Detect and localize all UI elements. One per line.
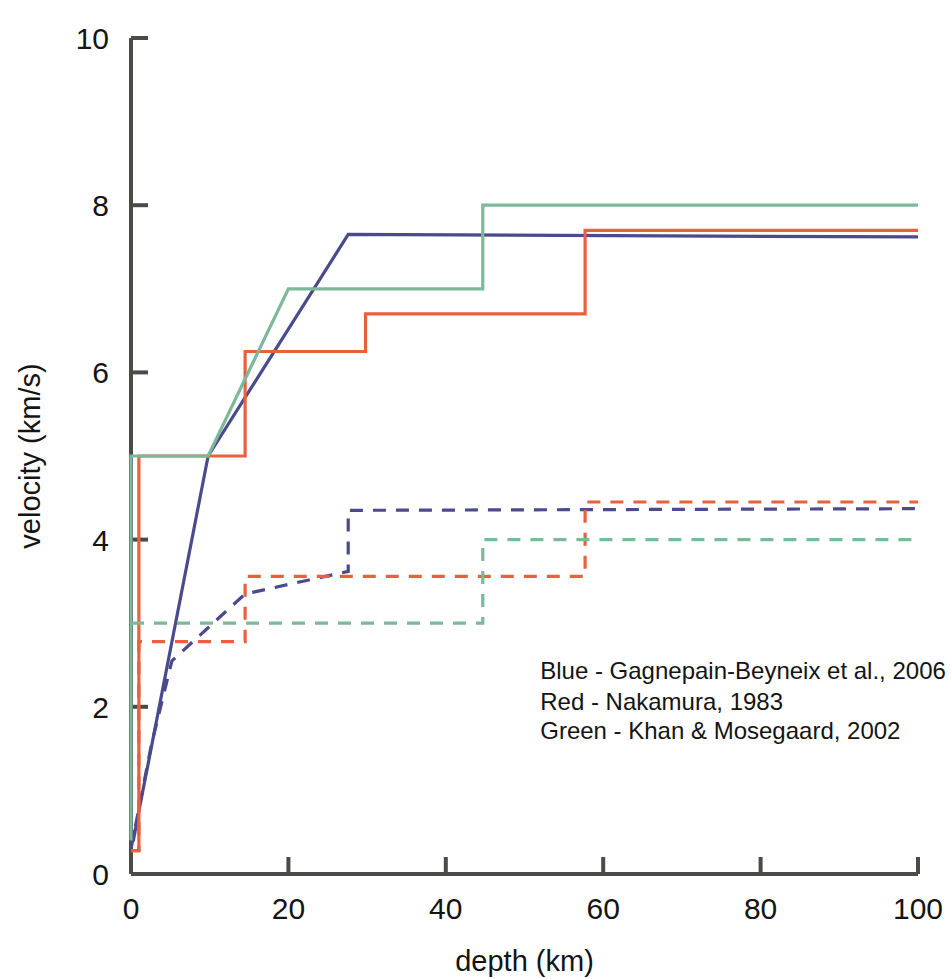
series-green-p-solid	[131, 205, 918, 840]
x-tick-label-60: 60	[587, 892, 620, 925]
data-series-layer	[131, 205, 918, 850]
x-axis-ticks	[131, 857, 918, 874]
x-axis-title: depth (km)	[455, 945, 594, 977]
axes-layer	[131, 38, 918, 874]
x-tick-label-0: 0	[123, 892, 140, 925]
series-red-p-solid	[131, 230, 918, 850]
y-axis-title: velocity (km/s)	[14, 363, 46, 548]
series-blue-p-solid	[131, 234, 918, 836]
legend-red: Red - Nakamura, 1983	[540, 688, 783, 715]
series-green-s-dashed	[131, 540, 918, 624]
x-tick-label-80: 80	[744, 892, 777, 925]
y-tick-label-8: 8	[92, 189, 109, 222]
y-tick-label-4: 4	[92, 524, 109, 557]
chart-svg: 0246810020406080100 Blue - Gagnepain-Bey…	[0, 0, 951, 979]
x-tick-label-100: 100	[893, 892, 943, 925]
legend-blue: Blue - Gagnepain-Beyneix et al., 2006	[540, 657, 946, 684]
y-tick-label-10: 10	[76, 22, 109, 55]
x-tick-label-20: 20	[272, 892, 305, 925]
x-tick-label-40: 40	[429, 892, 462, 925]
y-tick-label-2: 2	[92, 691, 109, 724]
chart-legend: Blue - Gagnepain-Beyneix et al., 2006Red…	[540, 657, 946, 743]
y-tick-label-0: 0	[92, 858, 109, 891]
legend-green: Green - Khan & Mosegaard, 2002	[540, 717, 900, 744]
velocity-depth-chart: 0246810020406080100 Blue - Gagnepain-Bey…	[0, 0, 951, 979]
y-tick-label-6: 6	[92, 356, 109, 389]
